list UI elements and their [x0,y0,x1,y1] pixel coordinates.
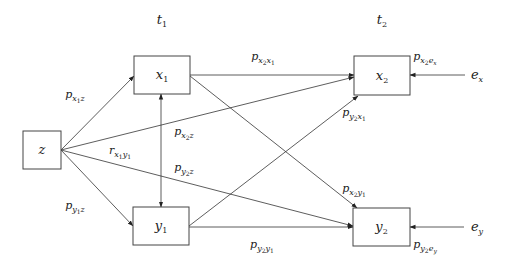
path-label-p_x2x1: px2x1 [251,50,275,66]
path-label-p_x1z: px1z [65,88,85,104]
edge-z-to-y2 [61,150,353,226]
path-label-p_y1z: py1z [65,199,85,215]
edge-y1-to-x2 [189,96,358,226]
node-label-z: z [38,142,46,157]
path-label-p_y2x1: py2x1 [342,106,366,122]
path-label-p_y2y1: py2y1 [250,238,274,254]
edge-z-to-x2 [61,77,354,150]
node-z: z [23,131,61,169]
path-label-r_x1y1: rx1y1 [109,144,131,160]
path-label-p_y2z: py2z [174,161,194,177]
node-x2: x2 [354,56,410,95]
error-term-ey: ey [471,219,484,236]
time-label-t1: t1 [157,12,167,29]
edge-z-to-y1 [61,150,133,226]
edges-group [61,75,465,227]
node-x1: x1 [134,56,190,94]
edge-x1-to-y2 [190,76,357,208]
nodes-group: zx1y1x2y2 [23,56,410,246]
path-diagram: zx1y1x2y2 t1t2exeypx1zpy1zrx1y1px2zpy2zp… [0,0,506,268]
path-label-p_y2ey: py2ey [413,238,437,255]
time-label-t2: t2 [377,12,387,29]
error-term-ex: ex [471,67,484,84]
node-y2: y2 [353,208,410,246]
path-label-p_x2y1: px2y1 [342,182,366,198]
node-y1: y1 [133,207,189,245]
path-label-p_x2z: px2z [174,125,194,141]
path-label-p_x2ex: px2ex [413,50,437,66]
